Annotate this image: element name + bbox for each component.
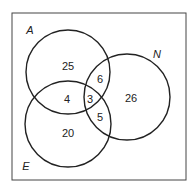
set-e-label: E — [22, 160, 30, 172]
set-a-label: A — [25, 24, 33, 36]
venn-diagram: A N E 25 26 20 6 4 5 3 — [0, 0, 191, 191]
region-a-n-e: 3 — [87, 93, 93, 105]
region-a-only: 25 — [62, 60, 74, 72]
region-e-only: 20 — [62, 127, 74, 139]
set-n-label: N — [153, 48, 161, 60]
region-a-n: 6 — [97, 73, 103, 85]
region-n-only: 26 — [125, 92, 137, 104]
region-a-e: 4 — [64, 93, 70, 105]
region-n-e: 5 — [97, 111, 103, 123]
